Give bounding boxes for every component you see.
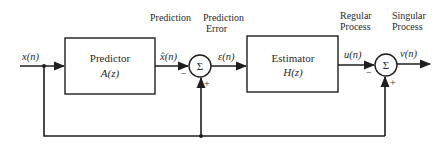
- predictor-title: Predictor: [90, 52, 131, 64]
- predictor-block: [65, 38, 155, 94]
- singular-process-header-line2: Process: [392, 21, 423, 32]
- input-signal-label: x(n): [21, 51, 39, 63]
- predictor-transfer: A(z): [100, 67, 120, 80]
- bottom-junction-dot: [199, 134, 203, 138]
- prediction-error-signal-label: ε(n): [218, 51, 235, 63]
- sum1-plus-sign: +: [204, 78, 210, 89]
- estimator-title: Estimator: [272, 52, 315, 64]
- sum1-minus-sign: −: [181, 68, 187, 79]
- prediction-header: Prediction: [150, 12, 191, 23]
- prediction-error-header-line2: Error: [206, 23, 228, 34]
- singular-process-header-line1: Singular: [392, 10, 427, 21]
- wold-decomposition-diagram: Prediction Prediction Error Regular Proc…: [0, 0, 444, 145]
- sum1-symbol: Σ: [197, 60, 203, 72]
- regular-signal-label: u(n): [344, 49, 362, 61]
- prediction-signal-label: x̂(n): [159, 51, 177, 63]
- estimator-transfer: H(z): [282, 66, 303, 79]
- sum2-minus-sign: −: [366, 67, 372, 78]
- estimator-block: [247, 36, 338, 92]
- prediction-error-header-line1: Prediction: [203, 12, 244, 23]
- sum2-symbol: Σ: [383, 59, 389, 71]
- output-signal-label: v(n): [400, 48, 417, 60]
- sum2-plus-sign: +: [390, 77, 396, 88]
- regular-process-header-line1: Regular: [340, 10, 372, 21]
- regular-process-header-line2: Process: [340, 21, 371, 32]
